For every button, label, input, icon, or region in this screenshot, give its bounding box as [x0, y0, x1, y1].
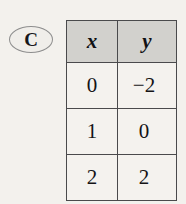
cell-y-2: 2 [118, 155, 177, 201]
column-header-x: x [67, 21, 118, 63]
table-row: 1 0 [67, 109, 177, 155]
table-header: x y [67, 21, 177, 63]
column-header-y: y [118, 21, 177, 63]
cell-x-1: 1 [67, 109, 118, 155]
table-row: 2 2 [67, 155, 177, 201]
cell-y-1: 0 [118, 109, 177, 155]
cell-x-0: 0 [67, 63, 118, 109]
table-body: 0 −2 1 0 2 2 [67, 63, 177, 201]
figure-canvas: C x y 0 −2 1 0 2 2 [0, 0, 186, 204]
cell-y-0: −2 [118, 63, 177, 109]
cell-x-2: 2 [67, 155, 118, 201]
xy-value-table: x y 0 −2 1 0 2 2 [66, 20, 177, 201]
problem-label-oval: C [9, 26, 53, 53]
table-row: 0 −2 [67, 63, 177, 109]
table-header-row: x y [67, 21, 177, 63]
problem-label-letter: C [24, 30, 38, 50]
